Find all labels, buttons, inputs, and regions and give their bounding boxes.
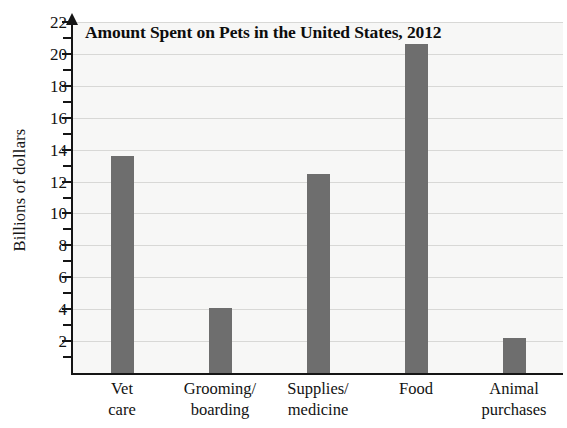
gridline: [73, 118, 563, 119]
gridline: [73, 86, 563, 87]
y-axis-minor-tick: [63, 133, 73, 135]
bar: [405, 44, 428, 373]
bar-chart-figure: Billions of dollars 246810121416182022 A…: [0, 0, 567, 428]
y-axis-major-tick: [62, 212, 73, 214]
x-tick-label-line: purchases: [481, 399, 546, 420]
y-axis-minor-tick: [63, 101, 73, 103]
y-axis-minor-tick: [63, 165, 73, 167]
chart-title: Amount Spent on Pets in the United State…: [85, 22, 442, 43]
x-tick-label-line: boarding: [184, 399, 256, 420]
y-axis-major-tick: [62, 117, 73, 119]
x-tick-label: Food: [399, 378, 433, 399]
x-axis-tick-labels: VetcareGrooming/boardingSupplies/medicin…: [73, 378, 563, 428]
x-tick-label: Animalpurchases: [481, 378, 546, 420]
y-axis-major-tick: [62, 276, 73, 278]
bar: [209, 308, 232, 373]
y-axis-minor-tick: [63, 292, 73, 294]
bar: [111, 156, 134, 373]
y-axis-minor-tick: [63, 197, 73, 199]
x-tick-label-line: Animal: [489, 379, 539, 398]
y-axis-minor-tick: [63, 356, 73, 358]
y-axis-major-tick: [62, 85, 73, 87]
gridline: [73, 150, 563, 151]
x-tick-label-line: care: [108, 399, 135, 420]
x-tick-label-line: Grooming/: [184, 379, 256, 398]
gridline: [73, 54, 563, 55]
y-axis-major-tick: [62, 21, 73, 23]
y-axis-title-text: Billions of dollars: [10, 129, 30, 252]
y-axis-minor-tick: [63, 69, 73, 71]
y-axis-tick-labels: 246810121416182022: [36, 0, 69, 380]
x-tick-label: Supplies/medicine: [287, 378, 348, 420]
y-axis-minor-tick: [63, 260, 73, 262]
bar: [503, 338, 526, 373]
plot-area: [73, 22, 563, 373]
y-axis-major-tick: [62, 181, 73, 183]
y-axis-major-tick: [62, 308, 73, 310]
x-tick-label-line: Supplies/: [287, 379, 348, 398]
x-tick-label: Grooming/boarding: [184, 378, 256, 420]
y-axis-minor-tick: [63, 228, 73, 230]
x-tick-label-line: Food: [399, 379, 433, 398]
y-axis-major-tick: [62, 340, 73, 342]
x-axis-line: [71, 373, 563, 375]
bar: [307, 174, 330, 373]
y-axis-minor-tick: [63, 324, 73, 326]
y-axis-title: Billions of dollars: [0, 0, 40, 380]
y-axis-minor-tick: [63, 37, 73, 39]
y-axis-arrow-icon: [66, 13, 78, 25]
x-tick-label-line: Vet: [111, 379, 133, 398]
y-axis-major-tick: [62, 149, 73, 151]
y-axis-major-tick: [62, 244, 73, 246]
y-axis-line: [71, 22, 73, 375]
x-tick-label-line: medicine: [287, 399, 348, 420]
y-axis-major-tick: [62, 53, 73, 55]
x-tick-label: Vetcare: [108, 378, 135, 420]
